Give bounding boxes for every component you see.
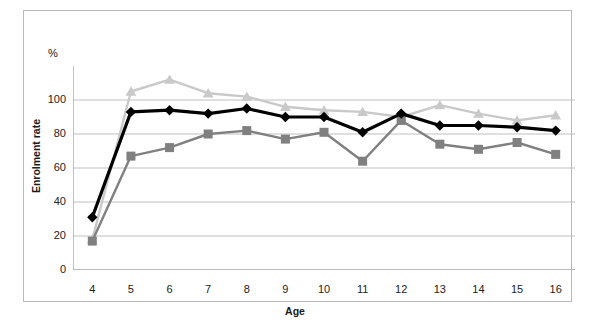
y-tick-label: 100 (32, 93, 66, 105)
data-point-triangle (434, 100, 445, 109)
data-point-square (88, 237, 97, 246)
x-tick-label: 13 (428, 283, 452, 295)
data-point-square (204, 130, 213, 139)
x-tick-label: 5 (119, 283, 143, 295)
data-point-square (320, 128, 329, 137)
plot-area (73, 66, 575, 270)
y-tick-label: 0 (32, 263, 66, 275)
x-tick-label: 8 (235, 283, 259, 295)
data-point-square (242, 126, 251, 135)
data-point-square (165, 143, 174, 152)
x-tick-label: 16 (544, 283, 568, 295)
data-point-diamond (242, 103, 252, 113)
series-line (92, 120, 555, 241)
data-point-square (281, 135, 290, 144)
chart-root: Indigenous Non-Indigenous Total Indigeno… (0, 0, 590, 335)
x-tick-label: 10 (312, 283, 336, 295)
y-tick-label: 40 (32, 195, 66, 207)
data-point-square (358, 157, 367, 166)
x-tick-label: 9 (273, 283, 297, 295)
x-tick-label: 11 (351, 283, 375, 295)
y-tick-label: 80 (32, 127, 66, 139)
y-tick-label: 20 (32, 229, 66, 241)
x-tick-label: 14 (466, 283, 490, 295)
data-point-square (513, 138, 522, 147)
x-tick-label: 4 (80, 283, 104, 295)
data-point-diamond (357, 127, 367, 137)
data-point-square (435, 140, 444, 149)
data-point-diamond (203, 108, 213, 118)
y-tick-label: 60 (32, 161, 66, 173)
x-axis-title: Age (0, 305, 590, 317)
series-line (92, 109, 555, 218)
data-point-diamond (280, 112, 290, 122)
data-point-diamond (473, 120, 483, 130)
series-indigenous (88, 116, 560, 246)
x-tick-label: 15 (505, 283, 529, 295)
data-point-square (474, 145, 483, 154)
x-tick-label: 6 (158, 283, 182, 295)
data-point-square (126, 152, 135, 161)
caption-strip (0, 318, 590, 335)
data-point-triangle (164, 74, 175, 83)
data-point-diamond (435, 120, 445, 130)
data-point-diamond (164, 105, 174, 115)
series-line (92, 80, 555, 240)
data-point-square (551, 150, 560, 159)
x-tick-label: 7 (196, 283, 220, 295)
y-axis-unit-symbol: % (48, 47, 58, 59)
series-total-indigenous-non-indigenous (87, 103, 561, 222)
x-tick-label: 12 (389, 283, 413, 295)
